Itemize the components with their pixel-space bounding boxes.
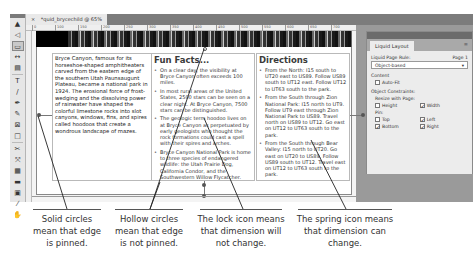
left-label: Left [427,116,436,123]
tools-panel: ▲ ◁ ▭ ↔ ▤ T / ✒ ✎ ⊠ □ ✂ ⤧ ▦ ▬ ▣ ⁄ ✋ [10,14,26,202]
directions-heading: Directions [259,55,347,65]
callout-solid-circles: Solid circles mean that edge is pinned. [30,213,104,249]
list-item: From the South through Bear Valley: I15 … [259,140,347,177]
type-tool-icon[interactable]: T [12,76,24,86]
checkbox-box [375,80,380,85]
selection-tool-icon[interactable]: ▲ [12,19,24,29]
document-tab-bar: × *quid_brycechild @ 65% [26,14,473,25]
left-checkbox[interactable]: ✓ Left [420,116,465,123]
intro-paragraph: Bryce Canyon, famous for its horseshoe-s… [55,55,148,134]
toolbox-divider [12,142,23,143]
panel-header[interactable] [367,32,472,39]
gradient-feather-tool-icon[interactable]: ▬ [12,177,24,187]
height-label: Height [382,102,397,109]
list-item: Bryce Canyon National Park is home to th… [154,149,252,180]
fun-facts-list: On a clear day, the visibility at Bryce … [154,67,252,180]
scissors-tool-icon[interactable]: ✂ [12,144,24,154]
fun-facts-frame[interactable]: Fun Facts... On a clear day, the visibil… [151,53,255,181]
free-transform-tool-icon[interactable]: ⤧ [12,155,24,165]
height-checkbox[interactable]: Height [375,102,420,109]
checkmark-icon: ✓ [420,117,425,122]
content-label: Content [371,72,468,79]
rectangle-frame-tool-icon[interactable]: ⊠ [12,120,24,130]
pin-label: Pin: [371,109,468,116]
liquid-layout-panel: Liquid Layout ≡ Liquid Page Rule: Page 1… [366,31,473,174]
callout-rule [298,209,392,210]
checkbox-box [375,103,380,108]
list-item: In most rural areas of the United States… [154,88,252,113]
panel-body: Liquid Page Rule: Page 1 Object-based ▾ … [367,51,472,174]
gap-tool-icon[interactable]: ↔ [12,52,24,62]
bottom-label: Bottom [382,123,399,130]
list-item: On a clear day, the visibility at Bryce … [154,67,252,86]
page-bottom-edge [32,196,356,197]
top-pin-hollow-circle[interactable] [203,47,207,51]
panel-tab-bar: Liquid Layout ≡ [367,39,472,51]
note-tool-icon[interactable]: ▣ [12,188,24,198]
document-tab-title: *quid_brycechild @ 65% [41,16,102,22]
liquid-page-rule-select[interactable]: Object-based ▾ [371,61,468,69]
width-label: Width [427,102,440,109]
fun-facts-heading: Fun Facts... [154,55,252,65]
directions-list: From the North: I15 south to UT20 east t… [259,67,347,177]
checkmark-icon: ✓ [420,103,425,108]
pencil-tool-icon[interactable]: ✎ [12,109,24,119]
object-constraints-label: Object Constraints: [371,88,468,95]
tab-liquid-layout[interactable]: Liquid Layout [370,41,414,51]
pen-tool-icon[interactable]: ✒ [12,98,24,108]
checkmark-icon: ✓ [420,124,425,129]
callout-rule [200,209,282,210]
top-label: Top [382,116,390,123]
callout-hollow-circles: Hollow circles mean that edge is not pin… [112,213,186,249]
intro-text-frame[interactable]: Bryce Canyon, famous for its horseshoe-s… [52,53,152,181]
content-collector-tool-icon[interactable]: ▤ [12,63,24,73]
close-tab-icon[interactable]: × [31,16,35,22]
eyedropper-tool-icon[interactable]: ⁄ [12,199,24,209]
height-lock-icon[interactable] [202,183,206,187]
gradient-swatch-tool-icon[interactable]: ▦ [12,166,24,176]
bottom-checkbox[interactable]: ✓ Bottom [375,123,420,130]
right-pin-solid-circle[interactable] [361,113,365,117]
page-number-label: Page 1 [452,54,468,61]
directions-frame[interactable]: Directions From the North: I15 south to … [256,53,350,181]
list-item: From the South through Zion National Par… [259,94,347,137]
callout-rule [115,209,183,210]
banner-shadow [36,31,68,47]
document-tab[interactable]: × *quid_brycechild @ 65% [26,14,107,25]
hand-tool-icon[interactable]: ✋ [12,210,24,220]
top-checkbox[interactable]: Top [375,116,420,123]
checkbox-box [375,117,380,122]
auto-fit-checkbox[interactable]: Auto-Fit [371,79,418,86]
toolbox-grip[interactable] [10,14,25,18]
liquid-page-rule-value: Object-based [375,62,406,68]
callout-spring-icon: The spring icon means that dimension can… [296,213,394,249]
callout-rule [33,209,101,210]
list-item: From the North: I15 south to UT20 east t… [259,67,347,92]
line-tool-icon[interactable]: / [12,87,24,97]
page-tool-icon[interactable]: ▭ [12,41,24,51]
liquid-page-rule-label: Liquid Page Rule: [371,54,410,61]
toolbox-divider [12,74,23,75]
panel-menu-icon[interactable]: ≡ [464,41,468,47]
resize-with-page-label: Resize with Page: [371,95,468,102]
checkmark-icon: ✓ [375,124,380,129]
left-pin-solid-circle[interactable] [37,113,41,117]
chevron-down-icon: ▾ [462,62,464,68]
direct-selection-tool-icon[interactable]: ◁ [12,30,24,40]
canyon-banner-image[interactable] [36,31,352,47]
right-label: Right [427,123,439,130]
callout-lock-icon: The lock icon means that dimension will … [196,213,286,249]
left-constraint-line [40,115,52,116]
rectangle-tool-icon[interactable]: □ [12,131,24,141]
width-checkbox[interactable]: ✓ Width [420,102,465,109]
list-item: The geologic term hoodoo lives on at Bry… [154,115,252,146]
right-checkbox[interactable]: ✓ Right [420,123,465,130]
auto-fit-label: Auto-Fit [382,79,400,86]
